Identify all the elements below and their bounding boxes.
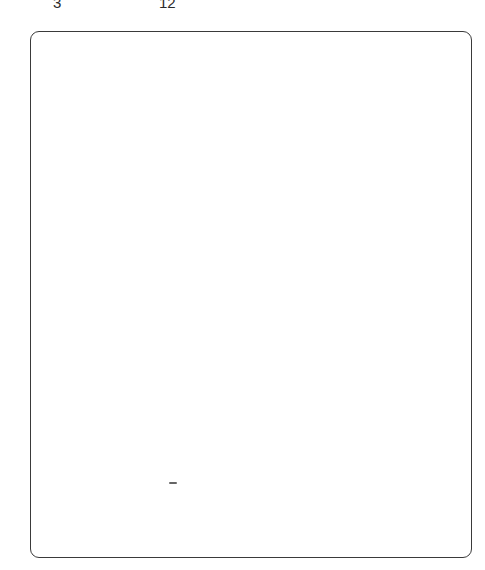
clipped-token-3: —3 [34, 0, 60, 4]
clipped-token-12-leading-fragment: — [140, 0, 158, 5]
scan-speck-mark [169, 482, 177, 484]
clipped-token-12: —12 [140, 0, 175, 4]
scanned-page: —3 —12 [0, 0, 485, 570]
clipped-token-3-leading-fragment: — [34, 0, 52, 5]
empty-figure-box [30, 31, 472, 558]
clipped-header-text: —3 —12 [0, 0, 485, 26]
clipped-token-12-value: 12 [159, 0, 176, 11]
clipped-token-3-value: 3 [53, 0, 61, 11]
